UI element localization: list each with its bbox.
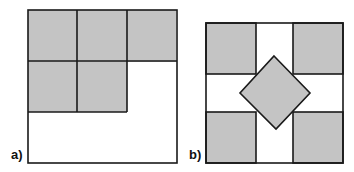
panel-b	[206, 23, 343, 163]
figure-canvas	[0, 0, 354, 172]
panel-a	[28, 10, 177, 163]
panel-a-shaded-row-1	[28, 10, 176, 62]
panel-b-corner-top-left	[206, 23, 256, 74]
panel-b-corner-top-right	[293, 23, 343, 74]
panel-b-label: b)	[189, 147, 201, 162]
panel-b-corner-bottom-right	[293, 112, 343, 163]
panel-b-corner-bottom-left	[206, 112, 256, 163]
panel-a-label: a)	[11, 147, 23, 162]
